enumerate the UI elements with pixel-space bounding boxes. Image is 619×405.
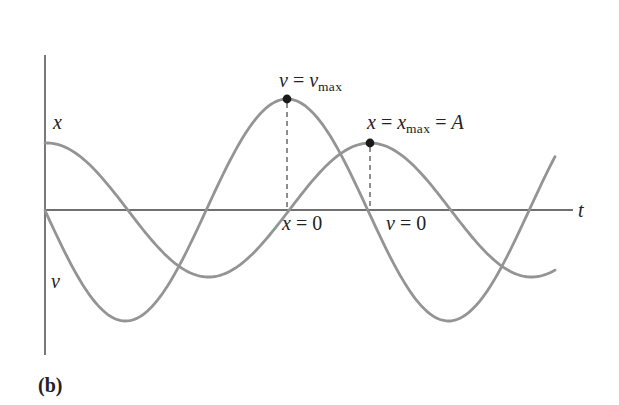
x-zero-annotation: x = 0 (282, 211, 322, 235)
v-curve-label: v (51, 269, 60, 293)
shm-xv-graph-figure: x v v = vmax x = xmax = A x = 0 v = 0 t … (0, 0, 619, 405)
vmax-point-dot (283, 95, 292, 104)
v-zero-annotation: v = 0 (386, 211, 426, 235)
vmax-annotation: v = vmax (279, 68, 342, 95)
xmax-annotation: x = xmax = A (367, 110, 464, 137)
xmax-point-dot (366, 139, 375, 148)
x-curve-label: x (53, 110, 62, 134)
t-axis-label: t (578, 198, 584, 222)
figure-caption: (b) (38, 374, 62, 397)
graph-canvas (0, 0, 619, 405)
